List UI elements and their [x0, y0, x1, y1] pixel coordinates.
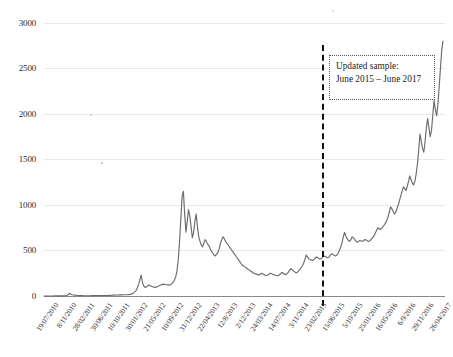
x-tick-label: 19/07/2010 — [34, 301, 60, 333]
